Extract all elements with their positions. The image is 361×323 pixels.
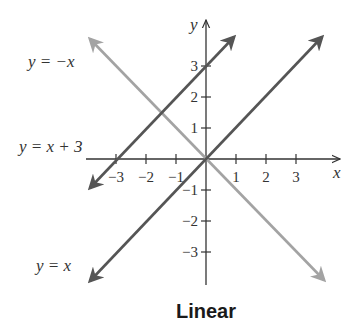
x-tick-label: 3	[292, 169, 300, 185]
y-tick-label: 2	[191, 89, 199, 105]
y-tick-label: −3	[182, 244, 198, 260]
y-axis-label: y	[188, 15, 198, 34]
x-tick-label: 1	[232, 169, 240, 185]
y-tick-label: 3	[191, 58, 199, 74]
y-tick-label: −2	[182, 213, 198, 229]
label-y-x-plus-3: y = x + 3	[17, 137, 83, 156]
chart-caption: Linear	[176, 300, 236, 322]
x-tick-labels: −3 −2 −1 1 2 3	[108, 169, 300, 185]
label-y-neg-x: y = −x	[26, 52, 75, 71]
label-y-x: y = x	[34, 256, 72, 275]
x-tick-label: 2	[262, 169, 270, 185]
y-tick-label: 1	[191, 120, 199, 136]
x-tick-label: −2	[138, 169, 154, 185]
linear-chart: −3 −2 −1 1 2 3 3 2 1 −1 −2 −3 y x y = −x…	[0, 0, 361, 323]
x-tick-label: −3	[108, 169, 124, 185]
x-axis-label: x	[332, 163, 341, 182]
y-tick-label: −1	[182, 182, 198, 198]
